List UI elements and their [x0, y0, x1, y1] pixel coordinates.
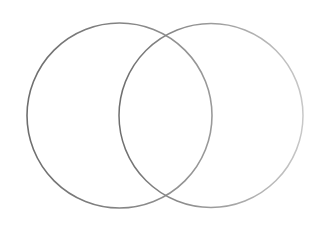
right-circle	[119, 24, 303, 208]
venn-svg	[0, 0, 321, 231]
venn-diagram	[0, 0, 321, 231]
